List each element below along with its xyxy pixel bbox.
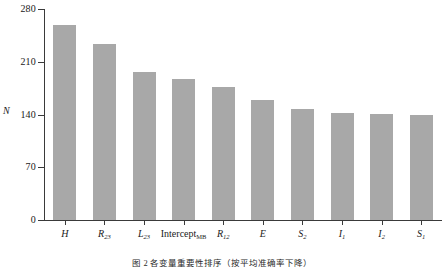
y-tick-label: 280 bbox=[0, 4, 36, 14]
x-tick-label: I2 bbox=[378, 228, 385, 239]
y-tick-mark bbox=[38, 167, 44, 168]
x-tick-mark bbox=[184, 221, 185, 225]
x-tick-label: InterceptMB bbox=[161, 228, 207, 239]
y-tick-mark bbox=[38, 9, 44, 10]
y-tick-label: 210 bbox=[0, 57, 36, 67]
x-tick-label: S2 bbox=[298, 228, 306, 239]
y-tick-mark bbox=[38, 62, 44, 63]
y-tick-label: 0 bbox=[0, 215, 36, 225]
bar bbox=[331, 113, 354, 220]
bar bbox=[370, 114, 393, 220]
bar bbox=[133, 72, 156, 220]
y-tick-label-text: 280 bbox=[2, 4, 36, 14]
figure-caption: 图 2 各变量重要性排序（按平均准确率下降） bbox=[0, 258, 444, 267]
y-tick-mark bbox=[38, 115, 44, 116]
bar bbox=[93, 44, 116, 220]
x-tick-mark bbox=[223, 221, 224, 225]
x-tick-mark bbox=[302, 221, 303, 225]
bar bbox=[53, 25, 76, 220]
y-tick-label-text: 70 bbox=[2, 162, 36, 172]
x-tick-label: S1 bbox=[417, 228, 425, 239]
x-tick-label: L23 bbox=[138, 228, 150, 239]
y-tick-label: 140 bbox=[0, 110, 36, 120]
bar bbox=[172, 79, 195, 220]
bar bbox=[212, 87, 235, 220]
y-tick-label-text: 0 bbox=[2, 215, 36, 225]
bar bbox=[291, 109, 314, 220]
y-tick-label-text: 210 bbox=[2, 57, 36, 67]
x-tick-mark bbox=[65, 221, 66, 225]
x-tick-label: R12 bbox=[217, 228, 230, 239]
x-tick-label: R23 bbox=[98, 228, 111, 239]
bar bbox=[251, 100, 274, 220]
y-tick-label: 70 bbox=[0, 162, 36, 172]
x-tick-mark bbox=[342, 221, 343, 225]
figure-bar-chart: N 070140210280 HR23L23InterceptMBR12ES2I… bbox=[0, 0, 444, 267]
x-tick-mark bbox=[263, 221, 264, 225]
y-tick-mark bbox=[38, 220, 44, 221]
x-tick-mark bbox=[382, 221, 383, 225]
y-tick-label-text: 140 bbox=[2, 110, 36, 120]
x-tick-label: I1 bbox=[339, 228, 346, 239]
x-tick-label: E bbox=[260, 228, 266, 239]
x-tick-label: H bbox=[61, 228, 68, 239]
bar bbox=[410, 115, 433, 221]
bars-group bbox=[45, 9, 442, 220]
x-tick-mark bbox=[144, 221, 145, 225]
x-tick-mark bbox=[104, 221, 105, 225]
x-tick-mark bbox=[421, 221, 422, 225]
